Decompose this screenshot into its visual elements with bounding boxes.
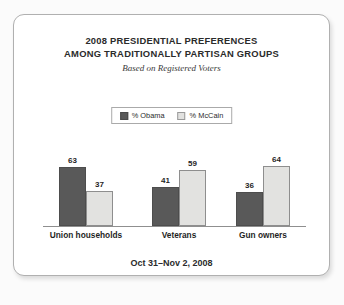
legend-label-obama: % Obama [132,111,165,120]
chart-card: 2008 PRESIDENTIAL PREFERENCES AMONG TRAD… [13,14,330,276]
legend-item-obama: % Obama [120,111,165,120]
category-label-0: Union households [50,230,122,240]
title-block: 2008 PRESIDENTIAL PREFERENCES AMONG TRAD… [14,35,329,73]
bar-value-obama-0: 63 [68,157,77,165]
bar-wrap-obama-0: 63 [59,157,86,227]
bar-wrap-obama-2: 36 [236,182,263,227]
bar-wrap-obama-1: 41 [152,177,179,227]
axis-baseline [43,226,306,227]
bar-value-mccain-1: 59 [188,160,197,168]
legend-item-mccain: % McCain [178,111,224,120]
bar-wrap-mccain-0: 37 [86,181,113,227]
legend-swatch-mccain [178,112,186,120]
legend-label-mccain: % McCain [190,111,224,120]
bar-wrap-mccain-1: 59 [179,160,206,227]
bar-mccain-0 [86,191,113,226]
bar-value-mccain-2: 64 [272,156,281,164]
category-label-1: Veterans [162,230,197,240]
chart-subtitle: Based on Registered Voters [14,63,329,73]
bar-mccain-1 [179,170,206,226]
chart-legend: % Obama % McCain [111,107,233,124]
chart-title-line-1: 2008 PRESIDENTIAL PREFERENCES [14,35,329,48]
category-axis-labels: Union households Veterans Gun owners [43,230,306,244]
chart-footer-date: Oct 31–Nov 2, 2008 [14,258,329,268]
bar-wrap-mccain-2: 64 [263,156,290,227]
legend-swatch-obama [120,112,128,120]
bar-mccain-2 [263,166,290,226]
chart-title-line-2: AMONG TRADITIONALLY PARTISAN GROUPS [14,48,329,61]
bar-value-obama-2: 36 [245,182,254,190]
category-label-2: Gun owners [239,230,287,240]
bar-group-gun-owners: 36 64 [236,156,290,227]
bar-group-veterans: 41 59 [152,160,206,227]
bar-value-obama-1: 41 [161,177,170,185]
bar-obama-1 [152,187,179,226]
bar-group-union-households: 63 37 [59,157,113,227]
bar-value-mccain-0: 37 [95,181,104,189]
plot-area: 63 37 41 59 36 64 [43,145,306,227]
bar-obama-2 [236,192,263,226]
bar-obama-0 [59,167,86,226]
